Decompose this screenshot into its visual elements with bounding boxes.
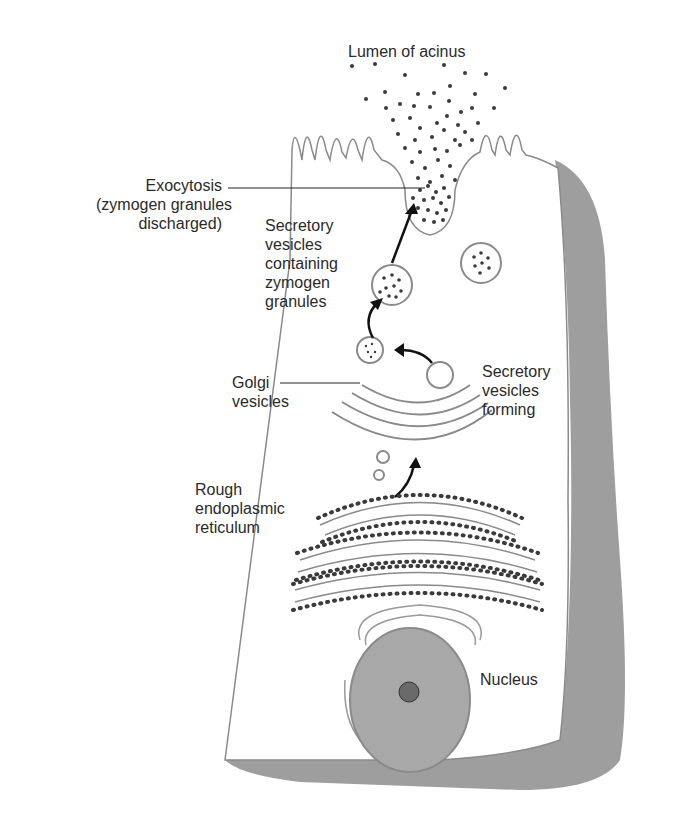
nucleolus	[399, 682, 419, 702]
exocytosis-granules	[411, 184, 451, 224]
cell-diagram	[0, 0, 682, 821]
label-golgi: Golgi vesicles	[232, 373, 289, 411]
label-forming: Secretory vesicles forming	[482, 362, 550, 419]
label-nucleus: Nucleus	[480, 670, 538, 689]
label-secretory-vesicles: Secretory vesicles containing zymogen gr…	[265, 216, 338, 311]
label-rer: Rough endoplasmic reticulum	[195, 480, 285, 537]
label-exocytosis: Exocytosis (zymogen granules discharged)	[96, 176, 222, 233]
label-lumen: Lumen of acinus	[348, 42, 465, 61]
